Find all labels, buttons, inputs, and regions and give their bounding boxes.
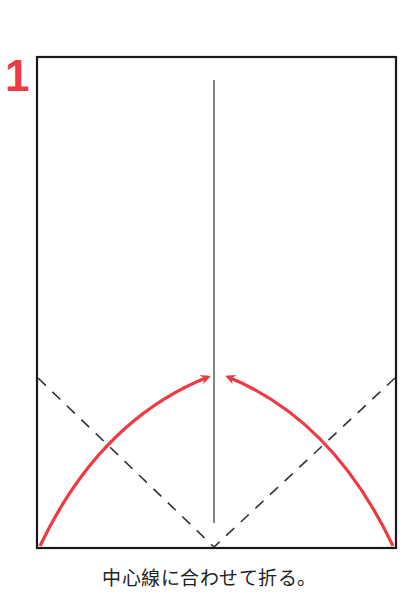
fold-line-left (38, 378, 214, 547)
fold-diagram (0, 0, 419, 610)
fold-arrow-left (40, 377, 208, 546)
step-caption: 中心線に合わせて折る。 (0, 563, 419, 590)
fold-line-right (214, 378, 395, 547)
paper-outline (37, 57, 396, 548)
fold-arrow-right (228, 377, 393, 546)
